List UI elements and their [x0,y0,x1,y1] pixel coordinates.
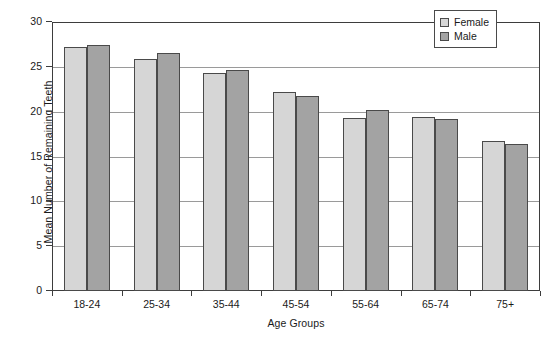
x-axis-tick-label: 25-34 [117,298,197,310]
x-axis-title: Age Groups [52,317,540,329]
legend-swatch-male [440,32,449,41]
bar-female-18-24 [64,47,87,291]
bar-male-35-44 [226,70,249,291]
bar-group [134,22,180,291]
bar-female-75+ [482,141,505,291]
legend: FemaleMale [434,10,497,48]
x-axis-tick-label: 45-54 [256,298,336,310]
x-axis-tick [52,291,53,296]
legend-label: Male [454,30,477,42]
x-axis-tick-label: 35-44 [186,298,266,310]
y-axis-tick-label: 15 [2,151,42,161]
x-axis-tick [261,291,262,296]
bar-female-55-64 [343,118,366,291]
x-axis-tick [191,291,192,296]
legend-item: Female [440,15,489,29]
bar-female-35-44 [203,73,226,291]
y-axis-tick-label: 10 [2,195,42,205]
bar-group [203,22,249,291]
bar-group [482,22,528,291]
bar-female-65-74 [412,117,435,291]
bar-female-25-34 [134,59,157,291]
x-axis-tick [470,291,471,296]
legend-label: Female [454,16,489,28]
legend-item: Male [440,29,489,43]
y-axis-tick-label: 0 [2,285,42,295]
x-axis-tick [331,291,332,296]
x-axis-tick [122,291,123,296]
x-axis-tick-label: 65-74 [395,298,475,310]
bar-group [412,22,458,291]
bar-male-45-54 [296,96,319,291]
bar-male-55-64 [366,110,389,291]
y-axis-tick-label: 5 [2,240,42,250]
y-axis-tick-label: 25 [2,61,42,71]
bar-male-25-34 [157,53,180,291]
bar-male-65-74 [435,119,458,291]
x-axis-tick [401,291,402,296]
legend-swatch-female [440,18,449,27]
x-axis-tick [540,291,541,296]
y-axis-tick-label: 20 [2,106,42,116]
bar-group [343,22,389,291]
x-axis-tick-label: 75+ [465,298,545,310]
x-axis-tick-label: 55-64 [326,298,406,310]
x-axis-tick-label: 18-24 [47,298,127,310]
bar-male-75+ [505,144,528,291]
bar-group [273,22,319,291]
bar-group [64,22,110,291]
y-axis-tick-label: 30 [2,16,42,26]
bar-groups [52,22,540,291]
bar-female-45-54 [273,92,296,291]
bar-chart: Mean Number of Remaining Teeth 051015202… [0,0,554,337]
bar-male-18-24 [87,45,110,291]
